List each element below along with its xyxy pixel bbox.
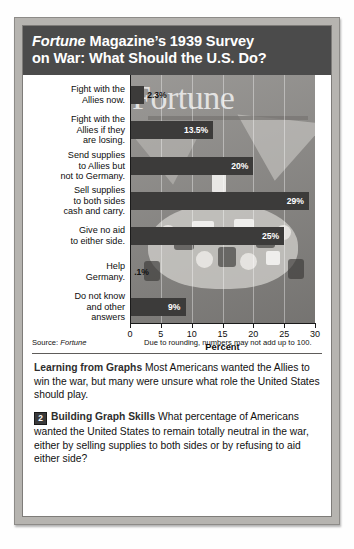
photo-shape-head-3: [240, 253, 257, 270]
caption-building-graph-skills: 2Building Graph Skills What percentage o…: [34, 410, 321, 465]
bar-value-label: 13.5%: [130, 121, 208, 139]
bar-value-label: 20%: [130, 157, 248, 175]
source-prefix: Source:: [32, 338, 60, 347]
page-root: Fortune Magazine’s 1939 Survey on War: W…: [0, 0, 354, 549]
category-label: Give no aidto either side.: [22, 225, 125, 247]
x-tick-20: [253, 323, 254, 328]
category-label: Fight with theAllies now.: [22, 84, 125, 106]
category-label: HelpGermany.: [22, 261, 125, 283]
y-axis-line: [130, 75, 131, 324]
x-tick-0: [130, 323, 131, 328]
caption-section: Learning from Graphs Most Americans want…: [23, 354, 331, 465]
source-row: Source: Fortune Due to rounding, numbers…: [32, 337, 322, 354]
category-label: Fight with theAllies if theyare losing.: [22, 114, 125, 147]
photo-shape-figure-5: [288, 259, 304, 279]
x-tick-5: [161, 323, 162, 328]
photo-shape-figure-2: [218, 247, 236, 267]
caption-heading: Building Graph Skills: [51, 411, 155, 422]
photo-shape-paper-3: [266, 251, 280, 265]
bar: [130, 86, 144, 104]
category-label: Send suppliesto Allies butnot to Germany…: [22, 150, 125, 183]
x-tick-30: [315, 323, 316, 328]
bar-value-label: 25%: [130, 227, 279, 245]
figure-frame: Fortune Magazine’s 1939 Survey on War: W…: [14, 17, 340, 525]
chart-container: Fight with theAllies now.Fight with theA…: [23, 75, 331, 337]
bar-value-label: 29%: [130, 192, 304, 210]
category-label: Do not knowand otheranswers: [22, 291, 125, 324]
chart-rounding-note: Due to rounding, numbers may not add up …: [144, 338, 312, 347]
title-line2: on War: What Should the U.S. Do?: [32, 50, 267, 66]
photo-shape-head-2: [196, 251, 213, 268]
figure-title-bar: Fortune Magazine’s 1939 Survey on War: W…: [23, 26, 331, 75]
source-publication: Fortune: [60, 338, 86, 347]
figure-title: Fortune Magazine’s 1939 Survey on War: W…: [32, 33, 323, 67]
plot-area: Fortune 2.3%13.5%20%29%25%.1%9%: [130, 75, 315, 323]
caption-heading: Learning from Graphs: [34, 362, 142, 373]
bar-chart: Fight with theAllies now.Fight with theA…: [23, 75, 332, 337]
category-label-column: Fight with theAllies now.Fight with theA…: [23, 75, 130, 337]
bar-value-label: .1%: [134, 263, 149, 281]
bar-value-label: 9%: [130, 298, 181, 316]
x-tick-25: [284, 323, 285, 328]
x-tick-15: [223, 323, 224, 328]
category-label: Sell suppliesto both sidescash and carry…: [22, 185, 125, 218]
title-magazine-name: Fortune: [32, 33, 86, 49]
title-line1-rest: Magazine’s 1939 Survey: [86, 33, 254, 49]
bar-value-label: 2.3%: [147, 86, 167, 104]
x-tick-10: [192, 323, 193, 328]
caption-learning-from-graphs: Learning from Graphs Most Americans want…: [34, 361, 321, 401]
figure-inner: Fortune Magazine’s 1939 Survey on War: W…: [22, 25, 332, 517]
chart-source: Source: Fortune: [32, 338, 86, 347]
question-number-badge: 2: [34, 412, 47, 425]
